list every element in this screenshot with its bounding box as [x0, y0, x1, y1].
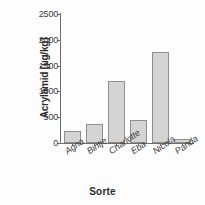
y-tick-label: 2000 — [39, 35, 58, 45]
y-tick-label: 2500 — [39, 9, 58, 19]
plot-area: 05001000150020002500 — [61, 14, 193, 143]
y-tick-label: 500 — [44, 112, 58, 122]
chart-figure: Acrylamid [µg/kg] 05001000150020002500 A… — [0, 0, 205, 205]
y-tick-label: 1000 — [39, 86, 58, 96]
bar — [152, 52, 169, 143]
y-tick-label: 1500 — [39, 61, 58, 71]
bar — [108, 81, 125, 143]
y-tick-label: 0 — [53, 138, 58, 148]
y-axis-title: Acrylamid [µg/kg] — [39, 38, 50, 119]
x-axis-title: Sorte — [0, 186, 205, 197]
